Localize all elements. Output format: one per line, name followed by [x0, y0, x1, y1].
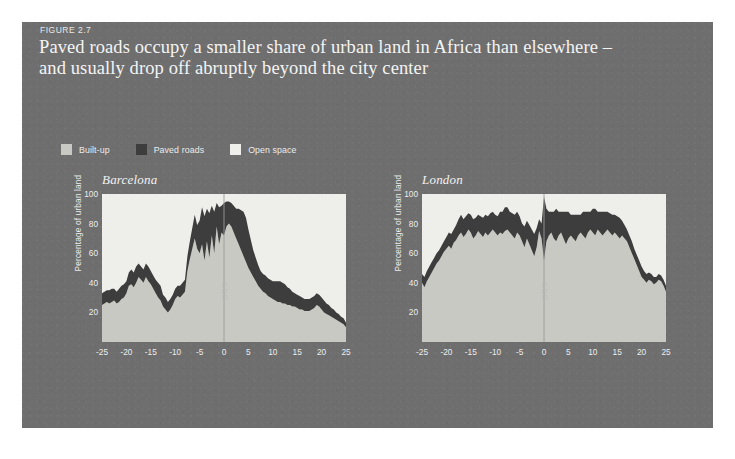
- legend-label: Built-up: [79, 145, 110, 155]
- y-axis-tick-label: 20: [409, 307, 418, 317]
- x-axis-tick-label: 15: [613, 347, 622, 357]
- y-axis-tick-label: 40: [409, 278, 418, 288]
- y-axis-tick-label: 20: [89, 307, 98, 317]
- figure-title-line-2: and usually drop off abruptly beyond the…: [39, 58, 669, 79]
- cbd-annotation-label: CBD: [540, 282, 549, 301]
- x-axis-tick-label: 10: [588, 347, 597, 357]
- legend-item-open-space: Open space: [230, 144, 296, 155]
- y-axis-label: Percentage of urban land: [393, 158, 403, 288]
- figure-number: FIGURE 2.7: [40, 25, 91, 35]
- plot-area: CBD20406080100-25-20-15-10-50510152025: [102, 194, 346, 342]
- legend-swatch-icon: [136, 144, 147, 155]
- chart-title: London: [422, 172, 463, 188]
- x-axis-tick-label: 25: [661, 347, 670, 357]
- stacked-area-plot: [422, 194, 666, 342]
- x-axis-tick-label: 15: [293, 347, 302, 357]
- legend-label: Open space: [248, 145, 296, 155]
- cbd-annotation-label: CBD: [220, 282, 229, 301]
- x-axis-tick-label: 20: [317, 347, 326, 357]
- x-axis-tick-label: 25: [341, 347, 350, 357]
- legend-swatch-icon: [230, 144, 241, 155]
- x-axis-tick-label: -15: [145, 347, 157, 357]
- chart-legend: Built-upPaved roadsOpen space: [61, 144, 323, 155]
- y-axis-tick-label: 100: [84, 189, 98, 199]
- chart-london: LondonPercentage of urban landCBD2040608…: [377, 172, 667, 382]
- x-axis-tick-label: -5: [516, 347, 523, 357]
- figure-title: Paved roads occupy a smaller share of ur…: [39, 37, 669, 79]
- y-axis-tick-label: 80: [409, 219, 418, 229]
- legend-label: Paved roads: [154, 145, 205, 155]
- x-axis-tick-label: -25: [416, 347, 428, 357]
- x-axis-tick-label: -5: [196, 347, 203, 357]
- x-axis-tick-label: 20: [637, 347, 646, 357]
- x-axis-tick-label: 0: [222, 347, 227, 357]
- figure-root: FIGURE 2.7 Paved roads occupy a smaller …: [0, 0, 735, 459]
- x-axis-tick-label: -10: [169, 347, 181, 357]
- y-axis-label: Percentage of urban land: [73, 158, 83, 288]
- chart-barcelona: BarcelonaPercentage of urban landCBD2040…: [57, 172, 347, 382]
- y-axis-tick-label: 60: [89, 248, 98, 258]
- x-axis-tick-label: 5: [566, 347, 571, 357]
- stacked-area-plot: [102, 194, 346, 342]
- x-axis-tick-label: 5: [246, 347, 251, 357]
- figure-title-line-1: Paved roads occupy a smaller share of ur…: [39, 37, 612, 57]
- y-axis-tick-label: 80: [89, 219, 98, 229]
- y-axis-tick-label: 60: [409, 248, 418, 258]
- legend-swatch-icon: [61, 144, 72, 155]
- x-axis-tick-label: -10: [489, 347, 501, 357]
- legend-item-built-up: Built-up: [61, 144, 110, 155]
- x-axis-tick-label: 0: [542, 347, 547, 357]
- legend-item-paved-roads: Paved roads: [136, 144, 205, 155]
- plot-area: CBD20406080100-25-20-15-10-50510152025: [422, 194, 666, 342]
- x-axis-tick-label: -15: [465, 347, 477, 357]
- x-axis-tick-label: -20: [440, 347, 452, 357]
- y-axis-tick-label: 100: [404, 189, 418, 199]
- chart-title: Barcelona: [102, 172, 157, 188]
- x-axis-tick-label: -25: [96, 347, 108, 357]
- x-axis-tick-label: 10: [268, 347, 277, 357]
- x-axis-tick-label: -20: [120, 347, 132, 357]
- y-axis-tick-label: 40: [89, 278, 98, 288]
